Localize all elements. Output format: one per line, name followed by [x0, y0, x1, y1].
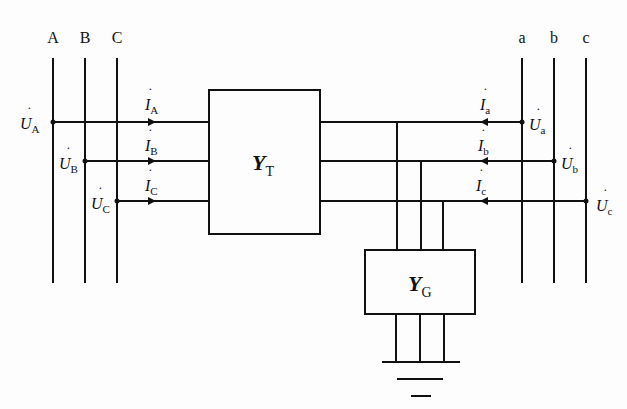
dot-accent: ˙ — [27, 105, 32, 120]
node-dot-C — [115, 199, 120, 204]
dot-accent: ˙ — [148, 127, 153, 142]
dot-accent: ˙ — [481, 127, 486, 142]
dot-accent: ˙ — [483, 86, 488, 101]
arrow-left-icon — [480, 197, 488, 205]
bus-label-a: a — [518, 29, 525, 46]
ground-block-label: YG — [408, 271, 432, 300]
node-dot-B — [83, 159, 88, 164]
bus-label-c: c — [582, 29, 589, 46]
three-phase-transformer-diagram: A B C a b c YT YG UA UB UC ˙ ˙ ˙ — [0, 0, 627, 409]
circuit-svg: A B C a b c YT YG UA UB UC ˙ ˙ ˙ — [0, 0, 627, 409]
bus-label-b: b — [550, 29, 558, 46]
bus-label-C: C — [112, 29, 123, 46]
arrow-left-icon — [480, 118, 488, 126]
dot-accent: ˙ — [148, 167, 153, 182]
node-dot-a — [520, 120, 525, 125]
arrow-right-icon — [148, 197, 156, 205]
dot-accent: ˙ — [98, 185, 103, 200]
arrow-right-icon — [148, 157, 156, 165]
ground-icon — [382, 362, 460, 396]
dot-accent: ˙ — [479, 167, 484, 182]
dot-accent: ˙ — [603, 187, 608, 202]
bus-label-B: B — [80, 29, 91, 46]
dot-accent: ˙ — [536, 106, 541, 121]
transformer-block-label: YT — [252, 150, 274, 179]
bus-label-A: A — [47, 29, 59, 46]
dot-accent: ˙ — [568, 145, 573, 160]
dot-accent: ˙ — [148, 86, 153, 101]
arrow-left-icon — [480, 157, 488, 165]
dot-accent: ˙ — [66, 145, 71, 160]
node-dot-A — [51, 120, 56, 125]
arrow-right-icon — [148, 118, 156, 126]
node-dot-b — [552, 159, 557, 164]
node-dot-c — [584, 199, 589, 204]
